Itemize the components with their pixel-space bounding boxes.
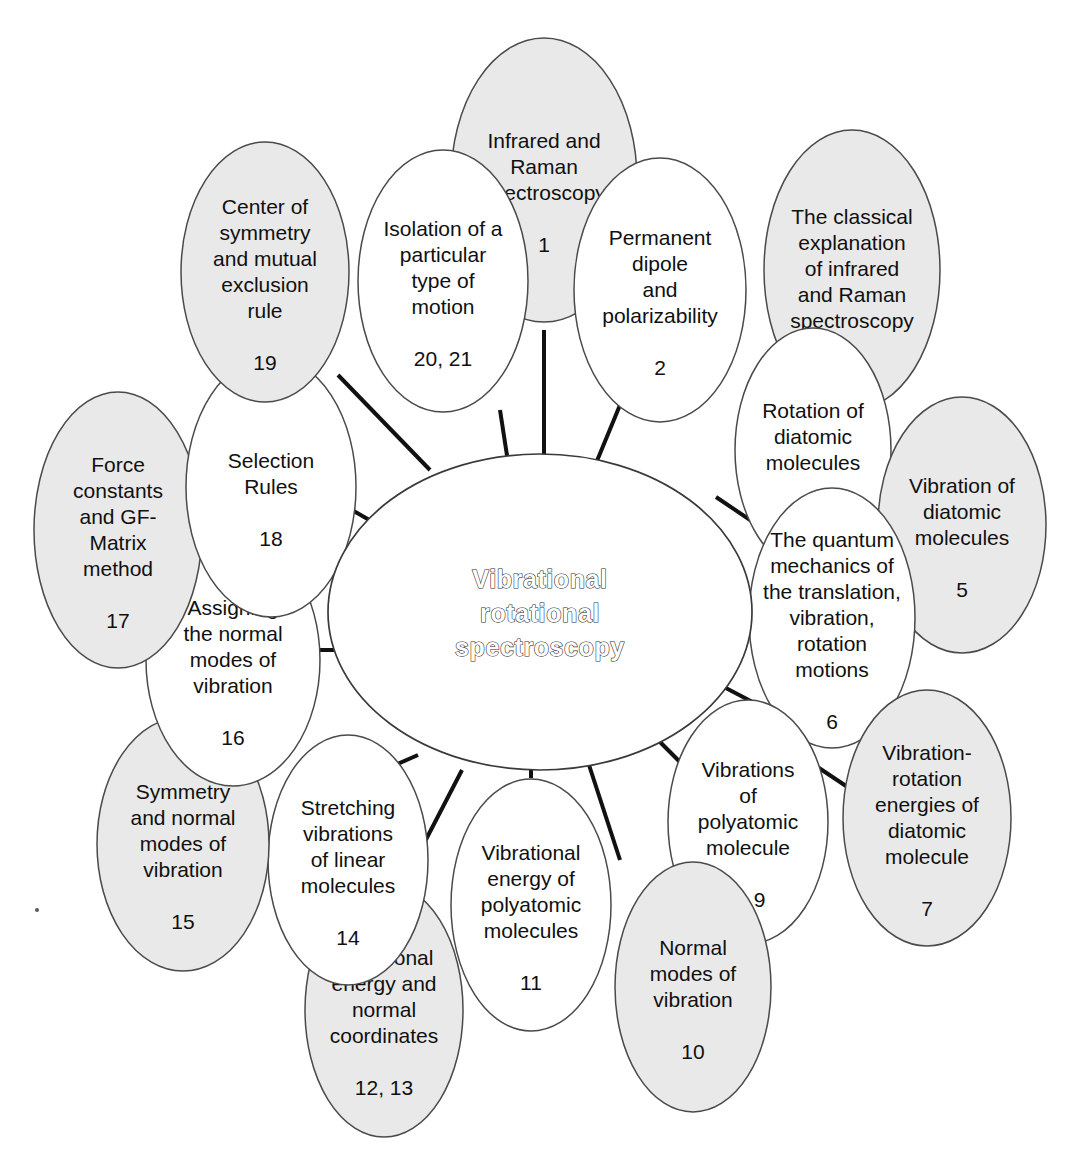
node-label-line: polarizability [602,304,718,327]
node-label-line: vibration, [789,606,874,629]
node-number: 16 [221,726,244,749]
node-label-line: rule [247,299,282,322]
node-label-line: Matrix [89,531,147,554]
node-label-line: motions [795,658,869,681]
node-number: 12, 13 [355,1076,413,1099]
node-label-line: Selection [228,449,314,472]
node-label-line: mechanics of [770,554,894,577]
node-label-line: Vibrations [701,758,794,781]
mindmap-node-n14[interactable]: Stretchingvibrationsof linearmolecules14 [268,735,428,985]
node-number: 15 [171,910,194,933]
node-label-line: Vibration of [909,474,1015,497]
mindmap-svg: Infrared andRamanspectroscopy1Permanentd… [0,0,1084,1170]
node-label-line: Stretching [301,796,396,819]
node-label-line: The quantum [770,528,894,551]
node-label-line: and mutual [213,247,317,270]
mindmap-canvas: Infrared andRamanspectroscopy1Permanentd… [0,0,1084,1170]
node-label-line: and Raman [798,283,907,306]
connector-line [660,742,680,762]
node-label-line: constants [73,479,163,502]
node-label-line: Permanent [609,226,712,249]
node-label-line: coordinates [330,1024,439,1047]
node-label-line: vibration [143,858,222,881]
mindmap-node-n2[interactable]: Permanentdipoleandpolarizability2 [574,158,746,422]
node-label-line: rotation [797,632,867,655]
node-label-line: method [83,557,153,580]
node-number: 6 [826,710,838,733]
node-label-line: the translation, [763,580,901,603]
node-label-line: rotation [892,767,962,790]
node-number: 5 [956,578,968,601]
node-number: 1 [538,233,550,256]
center-label-line3: spectroscopy [455,633,625,661]
node-label-line: normal [352,998,416,1021]
node-label-line: modes of [650,962,737,985]
node-label-line: energies of [875,793,979,816]
node-label-line: particular [400,243,486,266]
node-number: 17 [106,609,129,632]
node-label-line: polyatomic [481,893,581,916]
node-number: 2 [654,356,666,379]
mindmap-node-n2021[interactable]: Isolation of aparticulartype ofmotion20,… [358,150,528,412]
node-number: 18 [259,527,282,550]
node-label-line: molecule [706,836,790,859]
mindmap-node-n7[interactable]: Vibration-rotationenergies ofdiatomicmol… [843,690,1011,946]
node-label-line: dipole [632,252,688,275]
node-label-line: Rules [244,475,298,498]
node-label-line: modes of [190,648,277,671]
node-label-line: motion [411,295,474,318]
node-ellipse[interactable] [615,862,771,1112]
node-label-line: polyatomic [698,810,798,833]
node-label-line: of infrared [805,257,900,280]
mindmap-node-n11[interactable]: Vibrationalenergy ofpolyatomicmolecules1… [451,779,611,1031]
node-label-line: Infrared and [487,129,600,152]
node-label-line: energy of [487,867,575,890]
node-label-line: Normal [659,936,727,959]
node-label-line: diatomic [888,819,966,842]
mindmap-node-n10[interactable]: Normalmodes ofvibration10 [615,862,771,1112]
mindmap-node-n17[interactable]: Forceconstantsand GF-Matrixmethod17 [34,392,202,668]
node-label-line: type of [411,269,474,292]
node-label-line: and normal [130,806,235,829]
paper-speck [35,908,39,912]
node-label-line: and GF- [79,505,156,528]
node-label-line: Raman [510,155,578,178]
node-label-line: of linear [311,848,386,871]
node-number: 20, 21 [414,347,472,370]
node-label-line: diatomic [774,425,852,448]
center-label-line2: rotational [480,599,600,627]
node-label-line: Vibrational [482,841,581,864]
center-label-line1: Vibrational [472,565,607,593]
node-label-line: diatomic [923,500,1001,523]
node-label-line: vibration [193,674,272,697]
node-label-line: molecule [885,845,969,868]
node-label-line: modes of [140,832,227,855]
node-label-line: molecules [301,874,396,897]
node-label-line: molecules [915,526,1010,549]
node-label-line: and [642,278,677,301]
connector-line [500,410,508,462]
node-label-line: Center of [222,195,309,218]
node-number: 11 [520,971,542,994]
node-label-line: Isolation of a [383,217,502,240]
node-label-line: Vibration- [882,741,972,764]
node-number: 14 [336,926,360,949]
node-number: 10 [681,1040,704,1063]
node-label-line: vibration [653,988,732,1011]
node-label-line: explanation [798,231,905,254]
center-node[interactable]: Vibrational rotational spectroscopy [328,454,752,770]
node-label-line: vibrations [303,822,393,845]
node-label-line: of [739,784,757,807]
node-number: 19 [253,351,276,374]
node-number: 7 [921,897,933,920]
node-label-line: Force [91,453,145,476]
node-label-line: The classical [791,205,912,228]
node-label-line: molecules [766,451,861,474]
node-label-line: exclusion [221,273,309,296]
node-label-line: molecules [484,919,579,942]
node-label-line: symmetry [220,221,311,244]
mindmap-node-n19[interactable]: Center ofsymmetryand mutualexclusionrule… [181,142,349,402]
node-label-line: the normal [183,622,282,645]
node-label-line: Rotation of [762,399,864,422]
